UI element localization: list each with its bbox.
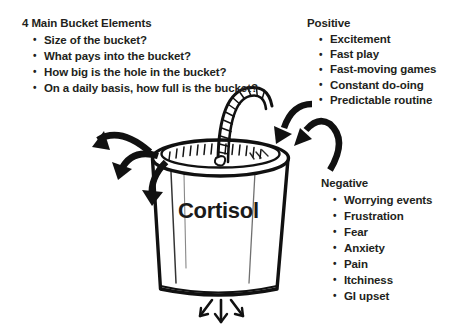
leak-arrow-left — [200, 300, 212, 316]
leak-arrow-icon — [200, 300, 243, 322]
list-item: Excitement — [319, 32, 467, 47]
list-item: Itchiness — [333, 272, 471, 288]
list-item: On a daily basis, how full is the bucket… — [33, 80, 268, 96]
bucket-elements-heading: 4 Main Bucket Elements — [22, 16, 268, 31]
list-item: What pays into the bucket? — [33, 48, 268, 64]
bucket-rim-hatching — [169, 144, 261, 160]
list-item: GI upset — [333, 288, 471, 304]
list-item: Fast-moving games — [319, 62, 467, 77]
bucket-label: Cortisol — [178, 198, 259, 224]
list-item: Anxiety — [333, 240, 471, 256]
cortisol-bucket-diagram: Cortisol 4 Main Bucket Elements Size of … — [0, 0, 472, 335]
outflow-arrow-1 — [92, 131, 150, 152]
list-item: Constant do-oing — [319, 78, 467, 93]
bucket-icon — [153, 87, 289, 295]
list-item: Frustration — [333, 208, 471, 224]
negative-heading: Negative — [321, 176, 471, 191]
outflow-arrow-3 — [142, 162, 166, 206]
bucket-bottom-curve — [161, 286, 278, 293]
positive-list: Excitement Fast play Fast-moving games C… — [319, 32, 467, 108]
bucket-interior-shading — [250, 150, 268, 159]
bucket-elements-block: 4 Main Bucket Elements Size of the bucke… — [22, 16, 268, 96]
positive-heading: Positive — [307, 16, 467, 31]
bucket-body-outline — [153, 159, 289, 295]
leak-arrow-center — [215, 300, 227, 322]
bucket-rim-inner — [162, 141, 280, 168]
list-item: Pain — [333, 256, 471, 272]
negative-block: Negative Worrying events Frustration Fea… — [321, 176, 471, 304]
list-item: How big is the hole in the bucket? — [33, 64, 268, 80]
outflow-arrow-2 — [112, 154, 158, 180]
inflow-arrow-2 — [294, 121, 339, 170]
list-item: Predictable routine — [319, 93, 467, 108]
bucket-rim-outer — [153, 140, 289, 176]
list-item: Fear — [333, 224, 471, 240]
leak-arrow-right — [231, 300, 243, 316]
bucket-seam-3 — [249, 172, 255, 283]
list-item: Fast play — [319, 47, 467, 62]
bucket-handle-icon — [215, 87, 272, 165]
bucket-seam-1 — [171, 172, 176, 283]
inflow-arrow-icon — [274, 104, 339, 170]
positive-block: Positive Excitement Fast play Fast-movin… — [307, 16, 467, 108]
outflow-arrow-icon — [92, 131, 166, 206]
list-item: Size of the bucket? — [33, 32, 268, 48]
bucket-elements-list: Size of the bucket? What pays into the b… — [33, 32, 268, 96]
negative-list: Worrying events Frustration Fear Anxiety… — [333, 192, 471, 304]
inflow-arrow-1 — [274, 104, 312, 144]
list-item: Worrying events — [333, 192, 471, 208]
